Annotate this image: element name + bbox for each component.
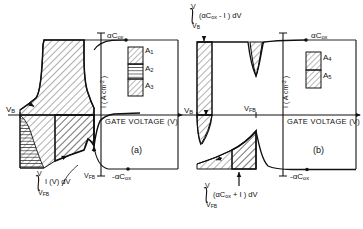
panel-a-level-dot-top <box>124 38 128 42</box>
panel-a-neg-alpha-cox-label: -αCox <box>112 172 131 181</box>
panel-a-integral-glyph <box>36 176 40 191</box>
panel-b-integral-top-body: (αCox - I ) dV <box>199 11 242 20</box>
panel-b-vb-label: VB <box>184 106 193 115</box>
panel-b-level-dot-top <box>304 38 308 42</box>
panel-a-legend <box>128 47 143 96</box>
panel-b-vfb-label: VFB <box>244 104 256 113</box>
panel-a-legend-swatch-1 <box>128 47 143 64</box>
panel-b-legend <box>306 52 321 88</box>
panel-b-integral-bot-body: (αCox + I ) dV <box>213 190 257 199</box>
panel-a-legend-swatch-3 <box>128 79 143 96</box>
panel-a-legend-label-2: A2 <box>145 64 154 73</box>
panel-a-legend-swatch-2 <box>128 64 143 79</box>
panel-b-integral-top-glyph <box>190 9 194 24</box>
panel-a-legend-label-3: A3 <box>145 81 154 90</box>
panel-b-level-dot-bot <box>305 168 309 172</box>
panel-a-alpha-cox-label: αCox <box>107 31 123 40</box>
panel-b-legend-label-4: A4 <box>323 53 332 62</box>
panel-a-ylabel: I ( A cm-2 ) <box>99 76 107 108</box>
panel-b-bottom-inner-box <box>232 131 256 169</box>
panel-b-legend-swatch-4 <box>306 52 321 70</box>
panel-b-caption: (b) <box>313 145 324 155</box>
panel-a-integral-lower-limit: VFB <box>38 189 49 197</box>
panel-a-vfb-label: VFB <box>84 172 95 180</box>
panel-a-xlabel: GATE VOLTAGE (V) <box>105 117 178 126</box>
panel-a-upper-level-tail <box>94 40 126 50</box>
mos-current-voltage-figure <box>0 0 363 229</box>
panel-a <box>8 33 183 186</box>
panel-b-integral-bot-upper-limit: V <box>205 182 210 189</box>
panel-a-level-dot-bot <box>126 167 130 171</box>
panel-a-inner-box <box>55 115 94 161</box>
panel-b-top-slab-hatch <box>197 42 212 115</box>
panel-a-upper-hatch <box>20 40 94 115</box>
panel-b-integral-top-lower-limit: VB <box>192 22 200 30</box>
panel-b <box>182 33 361 186</box>
panel-b-integral-top-upper-limit: V <box>191 3 196 10</box>
panel-b-legend-swatch-5 <box>306 70 321 88</box>
panel-b-spike-hatch <box>250 42 263 76</box>
panel-b-integral-bot-lower-limit: VFB <box>206 201 217 209</box>
panel-b-ylabel: I ( A cm-2 ) <box>281 76 289 108</box>
panel-b-legend-label-5: A5 <box>323 71 332 80</box>
panel-a-legend-label-1: A1 <box>145 46 154 55</box>
panel-a-integral-body: I (V) dV <box>45 177 70 186</box>
panel-a-vb-label: VB <box>6 105 15 114</box>
panel-b-alpha-cox-label: αCox <box>311 31 327 40</box>
panel-b-neg-alpha-cox-label: -αCox <box>290 172 309 181</box>
panel-a-integral-upper-limit: V <box>37 170 42 177</box>
panel-b-xlabel: GATE VOLTAGE (V) <box>287 117 360 126</box>
panel-b-integral-bot-glyph <box>204 188 208 203</box>
panel-a-caption: (a) <box>131 145 142 155</box>
